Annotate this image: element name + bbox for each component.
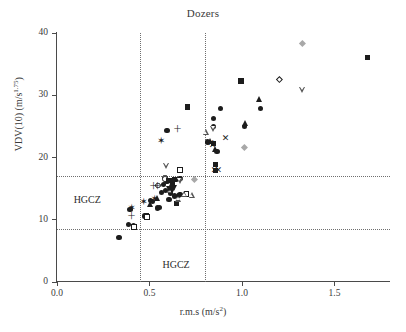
x-tick-label-1.5: 1.5 xyxy=(318,288,352,298)
data-point-plus-marker: ＋ xyxy=(173,125,182,134)
data-point-gray-diamond xyxy=(299,40,306,47)
x-axis-label-main: r.m.s (m/s xyxy=(180,306,220,317)
y-tick-40 xyxy=(52,33,56,34)
y-tick-30 xyxy=(52,95,56,96)
x-tick-1.0 xyxy=(242,282,243,286)
data-point-open-triangle-up xyxy=(181,191,187,197)
x-tick-0.0 xyxy=(57,282,58,286)
hgcz-hline-1 xyxy=(57,229,390,230)
data-point-open-square xyxy=(144,214,150,220)
y-tick-label-0: 0 xyxy=(28,276,48,286)
y-axis-label: VDV(10) (m/s1.75) xyxy=(12,44,24,184)
y-axis-label-main: VDV(10) (m/s xyxy=(13,93,24,152)
data-point-open-triangle-down xyxy=(163,163,169,169)
y-tick-label-20: 20 xyxy=(28,152,48,162)
data-point-filled-square xyxy=(238,78,243,83)
data-point-plus-marker: ＋ xyxy=(127,212,136,221)
y-tick-label-10: 10 xyxy=(28,214,48,224)
data-point-open-square xyxy=(177,167,183,173)
data-point-open-triangle-down xyxy=(177,178,183,184)
x-tick-label-0.0: 0.0 xyxy=(40,288,74,298)
data-point-x-marker: ✕ xyxy=(214,166,222,175)
hgcz-label-left: HGCZ xyxy=(74,194,101,205)
data-point-open-diamond xyxy=(276,76,283,83)
data-point-star-marker: ✶ xyxy=(127,203,135,213)
data-point-filled-triangle-up xyxy=(242,120,248,126)
data-point-filled-square xyxy=(174,201,179,206)
data-point-x-marker: ✕ xyxy=(209,141,217,150)
data-point-filled-triangle-up xyxy=(256,96,262,102)
data-point-open-triangle-down xyxy=(210,126,216,132)
x-axis-label: r.m.s (m/s2) xyxy=(0,305,406,317)
x-tick-1.5 xyxy=(334,282,335,286)
data-point-open-square xyxy=(131,224,137,230)
data-point-star-marker: ✶ xyxy=(157,136,165,146)
data-point-star-marker: ✶ xyxy=(139,197,147,207)
data-point-open-triangle-up xyxy=(189,192,195,198)
data-point-filled-circle xyxy=(211,116,216,121)
y-axis-label-tail: ) xyxy=(13,77,24,80)
data-point-filled-circle xyxy=(157,205,162,210)
data-point-filled-triangle-down xyxy=(171,185,177,191)
hgcz-hline-0 xyxy=(57,176,390,177)
hgcz-vline-0 xyxy=(140,33,141,282)
chart-title: Dozers xyxy=(0,7,406,19)
hgcz-vline-1 xyxy=(205,33,206,282)
data-point-x-marker: ✕ xyxy=(222,134,230,143)
data-point-open-triangle-up xyxy=(203,129,209,135)
hgcz-label-bottom: HGCZ xyxy=(162,259,189,270)
data-point-filled-square xyxy=(185,104,190,109)
y-tick-label-30: 30 xyxy=(28,89,48,99)
data-point-filled-circle xyxy=(164,128,169,133)
y-tick-10 xyxy=(52,219,56,220)
x-tick-label-0.5: 0.5 xyxy=(133,288,167,298)
data-point-filled-circle xyxy=(258,106,263,111)
y-tick-20 xyxy=(52,157,56,158)
x-axis-label-tail: ) xyxy=(223,306,226,317)
data-point-filled-circle xyxy=(218,106,223,111)
y-axis-label-exponent: 1.75 xyxy=(12,80,20,92)
data-point-open-triangle-down xyxy=(299,87,305,93)
data-point-filled-circle xyxy=(166,197,171,202)
x-tick-0.5 xyxy=(149,282,150,286)
data-point-filled-circle xyxy=(116,235,121,240)
chart-figure: Dozers VDV(10) (m/s1.75) r.m.s (m/s2) ✕✕… xyxy=(0,0,406,332)
data-point-filled-square xyxy=(365,55,370,60)
plot-area: ✕✕✕✕✕＋＋＋＋✶✶✶✶ HGCZHGCZ xyxy=(57,33,390,282)
data-point-open-triangle-up xyxy=(175,196,181,202)
x-tick-label-1.0: 1.0 xyxy=(225,288,259,298)
y-tick-label-40: 40 xyxy=(28,27,48,37)
data-point-star-marker: ✶ xyxy=(151,194,159,204)
y-tick-0 xyxy=(52,282,56,283)
data-point-plus-marker: ＋ xyxy=(153,182,162,191)
data-point-gray-diamond xyxy=(241,144,248,151)
